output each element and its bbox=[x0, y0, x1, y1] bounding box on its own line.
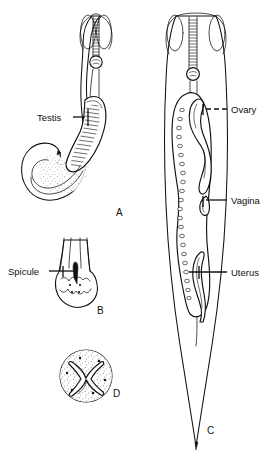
papilla-1 bbox=[69, 284, 71, 286]
cross-section-dot-4 bbox=[104, 379, 106, 381]
cross-section-dot-3 bbox=[66, 372, 68, 374]
panel-letter-a: A bbox=[116, 207, 123, 218]
label-ovary: Ovary bbox=[231, 104, 257, 115]
papilla-4 bbox=[78, 291, 80, 293]
cross-section-dot-6 bbox=[92, 392, 94, 394]
panel-letter-d: D bbox=[113, 388, 120, 399]
figure-plate: Testis A Spicule B bbox=[0, 0, 276, 458]
panel-letter-c: C bbox=[207, 425, 214, 436]
label-spicule: Spicule bbox=[8, 266, 39, 277]
plate-background bbox=[0, 0, 276, 458]
male-esophageal-bulb bbox=[90, 56, 102, 68]
cross-section-dot-5 bbox=[71, 389, 73, 391]
label-testis: Testis bbox=[37, 112, 62, 123]
cross-section-dot-1 bbox=[79, 357, 81, 359]
female-genital-pore bbox=[202, 205, 204, 207]
panel-letter-b: B bbox=[97, 305, 104, 316]
label-vagina: Vagina bbox=[231, 195, 261, 206]
cross-section-dot-2 bbox=[98, 360, 100, 362]
label-uterus: Uterus bbox=[231, 267, 259, 278]
female-esophageal-bulb bbox=[187, 68, 200, 81]
papilla-2 bbox=[79, 284, 81, 286]
papilla-3 bbox=[71, 291, 73, 293]
